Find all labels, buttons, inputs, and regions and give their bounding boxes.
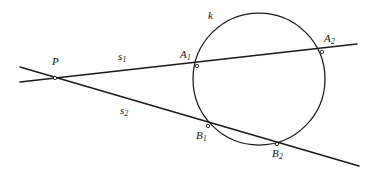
circle-k <box>193 13 325 145</box>
label-point-p: P <box>52 56 59 67</box>
vertex-dot-P <box>53 76 56 79</box>
geometry-diagram: P k s1 s2 A1 A2 B1 B2 <box>0 0 372 180</box>
label-secant-s2: s2 <box>120 105 128 118</box>
vertex-dot-A1 <box>195 64 198 67</box>
label-point-a1: A1 <box>180 49 191 62</box>
vertex-dot-B1 <box>206 124 209 127</box>
label-point-a2: A2 <box>324 33 335 46</box>
label-secant-s1: s1 <box>118 51 126 64</box>
diagram-canvas <box>0 0 372 180</box>
label-circle-k: k <box>208 10 213 21</box>
label-point-b2: B2 <box>272 148 283 161</box>
label-point-b1: B1 <box>196 130 207 143</box>
secant-line-s2 <box>20 67 359 166</box>
vertex-dot-B2 <box>275 142 278 145</box>
vertex-dot-A2 <box>320 50 323 53</box>
